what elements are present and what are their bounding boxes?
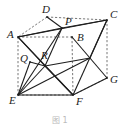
vertex-point-C bbox=[106, 19, 108, 21]
vertex-label-A: A bbox=[6, 28, 14, 40]
vertex-point-P bbox=[61, 27, 63, 29]
vertex-point-A bbox=[17, 36, 19, 38]
vertex-label-B: B bbox=[77, 31, 84, 43]
cube-diagram: ADPCBQREFG 图 1 bbox=[0, 0, 126, 126]
dashed-edge-DC bbox=[47, 17, 107, 20]
vertex-label-P: P bbox=[64, 15, 72, 27]
vertex-point-E bbox=[17, 94, 19, 96]
vertex-label-F: F bbox=[75, 95, 83, 107]
edge-ER bbox=[18, 66, 45, 95]
vertex-label-E: E bbox=[8, 94, 16, 106]
vertex-point-F bbox=[72, 94, 74, 96]
vertex-point-G bbox=[106, 77, 108, 79]
vertex-label-R: R bbox=[40, 49, 48, 61]
edge-DP bbox=[47, 17, 62, 28]
dashed-edge-BF bbox=[72, 37, 73, 95]
figure-caption: 图 1 bbox=[52, 116, 68, 125]
vertex-label-D: D bbox=[41, 3, 50, 15]
vertex-point-Q bbox=[29, 61, 31, 63]
vertex-label-C: C bbox=[110, 8, 118, 20]
edge-EM bbox=[18, 58, 90, 95]
vertex-point-D bbox=[46, 16, 48, 18]
vertex-point-B bbox=[71, 36, 73, 38]
vertex-labels: ADPCBQREFG bbox=[6, 3, 118, 107]
edge-FG bbox=[73, 78, 107, 95]
vertex-label-G: G bbox=[110, 73, 118, 85]
edge-RF bbox=[45, 66, 73, 95]
vertex-label-Q: Q bbox=[20, 52, 28, 64]
vertex-point-R bbox=[44, 65, 46, 67]
